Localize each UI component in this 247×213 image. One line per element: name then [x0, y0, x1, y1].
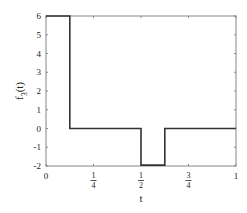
x-tick-fraction: 12 [138, 171, 144, 190]
x-axis-label: t [139, 192, 142, 204]
svg-text:f3(t): f3(t) [13, 82, 29, 100]
y-tick-label: 6 [37, 11, 42, 21]
svg-text:1: 1 [139, 171, 143, 180]
y-axis-label-arg: (t) [13, 82, 26, 93]
y-tick-label: 0 [37, 124, 42, 134]
y-tick-label: 2 [37, 86, 42, 96]
x-tick-fraction: 14 [91, 171, 97, 190]
svg-text:1: 1 [92, 171, 96, 180]
svg-text:3: 3 [187, 171, 191, 180]
y-tick-label: 4 [37, 49, 42, 59]
y-tick-label: 5 [37, 30, 42, 40]
x-tick-fraction: 34 [186, 171, 192, 190]
y-tick-label: 1 [37, 105, 42, 115]
y-tick-label: -1 [34, 142, 42, 152]
svg-text:4: 4 [187, 181, 191, 190]
series-line [46, 16, 236, 165]
data-series [46, 16, 236, 165]
y-tick-label: 3 [37, 67, 42, 77]
svg-text:2: 2 [139, 181, 143, 190]
svg-text:4: 4 [92, 181, 96, 190]
x-tick-label: 1 [234, 171, 239, 181]
y-axis-label: f3(t) [13, 82, 29, 100]
y-tick-label: -2 [34, 161, 42, 171]
x-tick-label: 0 [44, 171, 49, 181]
y-axis-ticks: 6543210-1-2 [34, 11, 237, 171]
chart: 6543210-1-2 01412341 t f3(t) [0, 0, 247, 213]
